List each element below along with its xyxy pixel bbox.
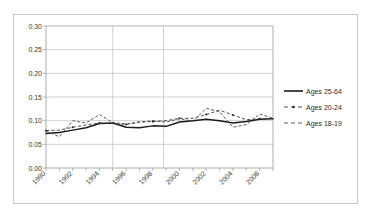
y-tick-label: 0.10 [28,117,42,124]
chart-frame: 0.000.050.100.150.200.250.30 19901992199… [13,14,358,204]
y-tick-label: 0.30 [28,23,42,30]
legend-marker [292,105,295,108]
x-tick-label: 1994 [84,170,100,186]
y-tick-label: 0.05 [28,141,42,148]
y-axis-labels: 0.000.050.100.150.200.250.30 [28,23,42,172]
series-marker [205,113,208,116]
chart-legend: Ages 25-64Ages 20-24Ages 18-19 [284,88,342,128]
x-axis-labels: 199019921994199619982000200220042006 [31,170,261,186]
x-tick-label: 2002 [191,170,207,186]
y-tick-label: 0.20 [28,70,42,77]
y-tick-label: 0.15 [28,94,42,101]
legend-label: Ages 20-24 [306,104,342,112]
y-tick-label: 0.25 [28,46,42,53]
x-tick-label: 2004 [218,170,234,186]
plot-area: 0.000.050.100.150.200.250.30 19901992199… [14,15,359,205]
x-tick-label: 1996 [111,170,127,186]
gridlines [46,26,273,168]
x-tick-label: 1992 [57,170,73,186]
line-chart: 0.000.050.100.150.200.250.30 19901992199… [14,15,359,205]
legend-label: Ages 25-64 [306,88,342,96]
x-tick-label: 1998 [138,170,154,186]
axis-ticks [43,26,273,171]
x-tick-label: 1990 [31,170,47,186]
legend-label: Ages 18-19 [306,120,342,128]
x-tick-label: 2006 [244,170,260,186]
data-series [45,108,273,136]
x-tick-label: 2000 [164,170,180,186]
series-marker [71,126,74,129]
series-marker [232,114,235,117]
